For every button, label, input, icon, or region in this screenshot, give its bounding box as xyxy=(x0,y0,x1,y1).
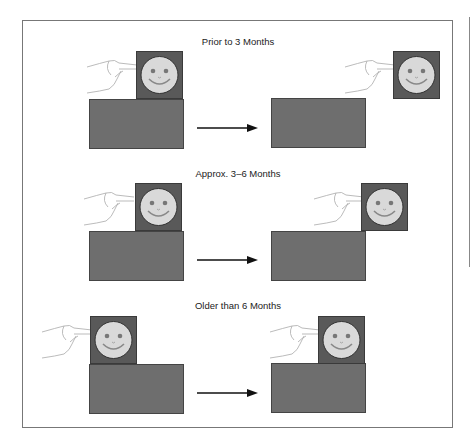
transition-arrow-2 xyxy=(197,251,259,269)
arrow-right-icon xyxy=(197,123,259,133)
face-card-left-1 xyxy=(136,51,183,99)
smiley-face-icon xyxy=(137,52,182,98)
face-card-left-2 xyxy=(135,183,182,231)
box-right-1 xyxy=(271,98,366,148)
panel-title-2: Approx. 3–6 Months xyxy=(138,168,338,179)
hand-right-3 xyxy=(268,320,324,366)
face-card-right-2 xyxy=(361,183,408,231)
box-left-3 xyxy=(89,364,184,414)
panel-title-1: Prior to 3 Months xyxy=(138,36,338,47)
smiley-face-icon xyxy=(319,317,364,363)
face-card-right-1 xyxy=(393,51,440,99)
hand-icon xyxy=(268,320,324,362)
hand-icon xyxy=(85,55,141,97)
box-right-3 xyxy=(271,363,366,413)
box-right-2 xyxy=(271,231,366,281)
arrow-right-icon xyxy=(197,255,259,265)
smiley-face-icon xyxy=(362,184,407,230)
transition-arrow-3 xyxy=(197,384,259,402)
hand-right-2 xyxy=(312,187,368,233)
hand-icon xyxy=(40,320,96,362)
panel-title-3: Older than 6 Months xyxy=(138,300,338,311)
arrow-right-icon xyxy=(197,388,259,398)
hand-icon xyxy=(312,187,368,229)
page-edge-line xyxy=(469,17,470,267)
smiley-face-icon xyxy=(91,317,136,363)
hand-left-1 xyxy=(85,55,141,101)
hand-left-2 xyxy=(82,187,138,233)
hand-left-3 xyxy=(40,320,96,366)
box-left-1 xyxy=(89,99,184,149)
face-card-left-3 xyxy=(90,316,137,364)
smiley-face-icon xyxy=(394,52,439,98)
smiley-face-icon xyxy=(136,184,181,230)
face-card-right-3 xyxy=(318,316,365,364)
hand-icon xyxy=(82,187,138,229)
hand-right-1 xyxy=(343,55,399,101)
transition-arrow-1 xyxy=(197,119,259,137)
box-left-2 xyxy=(89,231,184,281)
hand-icon xyxy=(343,55,399,97)
